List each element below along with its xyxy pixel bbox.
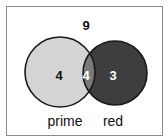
venn-diagram: 9 4 4 3 prime red	[0, 0, 168, 139]
prime-only-count: 4	[55, 68, 63, 83]
set-prime-label: prime	[47, 113, 82, 129]
intersection-count: 4	[82, 68, 90, 83]
universe-count: 9	[82, 18, 89, 33]
set-red-label: red	[103, 113, 123, 129]
red-only-count: 3	[109, 68, 116, 83]
